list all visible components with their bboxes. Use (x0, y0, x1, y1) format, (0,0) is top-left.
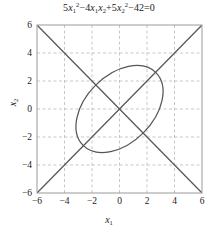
ytick-label: 6 (14, 20, 32, 30)
x-axis-label: x1 (0, 214, 218, 225)
ytick-label: −2 (14, 132, 32, 142)
y-axis-label-sub: 2 (12, 99, 19, 102)
y-axis-label-text: x (7, 102, 18, 106)
xtick-label: 0 (117, 196, 122, 206)
xtick-label: 6 (200, 196, 205, 206)
ytick-label: −4 (14, 160, 32, 170)
xtick-label: 4 (172, 196, 177, 206)
ytick-label: 4 (14, 48, 32, 58)
xtick-label: 2 (145, 196, 150, 206)
y-axis-label: x2 (7, 83, 18, 123)
figure-canvas: 5x12−4x1x2+5x22−42=0 (0, 0, 218, 237)
xtick-label: −6 (32, 196, 42, 206)
xtick-label: −2 (87, 196, 97, 206)
x-axis-label-sub: 1 (110, 219, 113, 226)
ytick-label: −6 (14, 188, 32, 198)
xtick-label: −4 (59, 196, 69, 206)
